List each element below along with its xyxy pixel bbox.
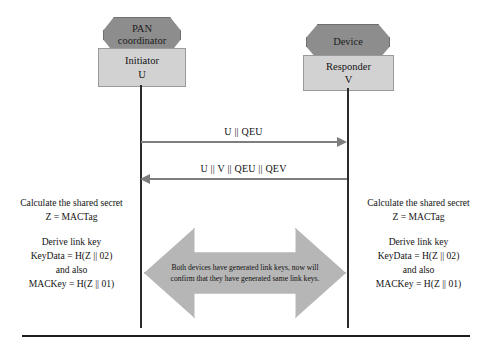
left-note-line2: Z = MACTag	[5, 210, 138, 224]
left-note-line3: Derive link key	[5, 235, 138, 249]
right-entity-role-label: Device	[333, 36, 363, 48]
right-note-line2: Z = MACTag	[352, 210, 485, 224]
left-entity-role-label: PAN coordinator	[118, 23, 166, 47]
bidirectional-confirmation-arrow: Both devices have generated link keys, n…	[144, 228, 346, 318]
right-note-line5: and also	[352, 263, 485, 277]
bidirectional-arrow-text: Both devices have generated link keys, n…	[145, 262, 345, 285]
message-2-line	[150, 178, 347, 180]
left-note-line4: KeyData = H(Z || 02)	[5, 249, 138, 263]
message-1-arrowhead	[337, 137, 347, 147]
left-notes-block: Calculate the shared secret Z = MACTag D…	[5, 196, 138, 290]
left-entity-box-line1: Initiator	[125, 54, 159, 67]
left-entity-role-line1: PAN	[118, 23, 166, 35]
left-note-line6: MACKey = H(Z || 01)	[5, 277, 138, 291]
right-entity-box: Responder V	[303, 55, 394, 91]
message-2-arrowhead	[140, 174, 150, 184]
right-note-line4: KeyData = H(Z || 02)	[352, 249, 485, 263]
right-notes-block: Calculate the shared secret Z = MACTag D…	[352, 196, 485, 290]
left-entity-role-line2: coordinator	[118, 35, 166, 47]
bottom-divider	[22, 335, 470, 337]
bidirectional-arrow-line2: confirm that they have generated same li…	[149, 273, 341, 284]
protocol-sequence-diagram: PAN coordinator Initiator U Device Respo…	[0, 0, 491, 345]
left-lifeline	[140, 85, 142, 328]
right-entity-box-line1: Responder	[326, 60, 371, 73]
right-note-line6: MACKey = H(Z || 01)	[352, 277, 485, 291]
left-entity-box-line2: U	[138, 68, 146, 81]
left-note-line5: and also	[5, 263, 138, 277]
message-1-line	[141, 141, 338, 143]
left-entity-box: Initiator U	[98, 48, 186, 87]
right-notes-spacer	[352, 224, 485, 235]
right-note-line1: Calculate the shared secret	[352, 196, 485, 210]
message-2-label: U || V || QEU || QEV	[140, 163, 347, 174]
right-entity-box-line2: V	[345, 73, 353, 86]
bidirectional-arrow-line1: Both devices have generated link keys, n…	[149, 262, 341, 273]
message-1-label: U || QEU	[140, 126, 347, 137]
right-note-line3: Derive link key	[352, 235, 485, 249]
left-note-line1: Calculate the shared secret	[5, 196, 138, 210]
left-notes-spacer	[5, 224, 138, 235]
right-lifeline	[347, 88, 349, 328]
